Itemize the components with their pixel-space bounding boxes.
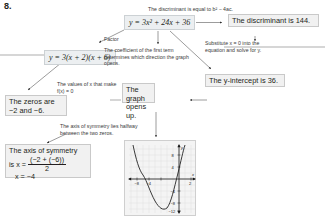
note-coefficient: The coefficient of the first term determ… [104,47,196,67]
axis-result: x = −4 [9,173,87,181]
svg-text:x: x [191,172,195,177]
axis-is: is x = [9,161,26,169]
answer-discriminant: The discriminant is 144. [228,14,319,27]
note-values-of-x: The values of x that make f(x) = 0 [57,81,119,94]
parabola-graph: −8 −4 2 8 4 −4 −8 −12 y x [124,140,196,216]
note-axis-halfway: The axis of symmetry lies halfway betwee… [60,123,144,136]
axis-label: The axis of symmetry [9,147,87,155]
note-discriminant-formula: The discriminant is equal to b² − 4ac. [148,6,268,13]
answer-zeros: The zeros are −2 and −6. [5,95,67,116]
graph-svg: −8 −4 2 8 4 −4 −8 −12 y x [125,141,197,217]
answer-graph-opens: The graph opens up. [122,83,155,103]
axis-fraction: (−2 + (−6)) 2 [28,156,66,173]
svg-text:−4: −4 [147,181,152,186]
svg-text:−4: −4 [171,189,176,194]
note-substitute: Substitute x = 0 into the equation and s… [205,40,265,53]
worksheet-page: 8. [0,0,325,219]
svg-text:−8: −8 [135,181,140,186]
svg-text:−12: −12 [169,209,177,214]
answer-axis-of-symmetry: The axis of symmetry is x = (−2 + (−6)) … [5,144,91,178]
note-factor: Factor [104,36,119,43]
answer-y-intercept: The y-intercept is 36. [205,74,285,87]
svg-text:−8: −8 [171,201,176,206]
equation-standard-form: y = 3x² + 24x + 36 [124,15,195,30]
svg-text:2: 2 [189,181,192,186]
